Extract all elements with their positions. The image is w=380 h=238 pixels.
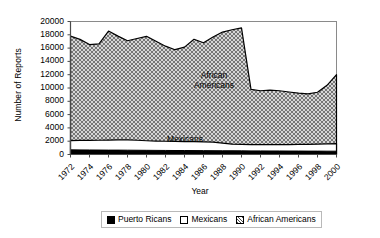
legend-label: Puerto Ricans: [118, 215, 171, 224]
x-axis-title: Year: [150, 186, 250, 196]
legend-label: African Americans: [247, 215, 316, 224]
x-axis-tick-labels: 1972197419761978198019821984198619881990…: [0, 0, 380, 238]
legend-label: Mexicans: [191, 215, 227, 224]
legend-entry[interactable]: Mexicans: [180, 215, 227, 224]
legend-swatch-solid-black: [107, 216, 115, 224]
chart-legend: Puerto RicansMexicansAfrican Americans: [101, 211, 322, 228]
legend-swatch-hatched: [236, 216, 244, 224]
legend-entry[interactable]: African Americans: [236, 215, 316, 224]
legend-entry[interactable]: Puerto Ricans: [107, 215, 171, 224]
legend-swatch-solid-white: [180, 216, 188, 224]
stacked-area-chart: Number of Reports 0200040006000800010000…: [0, 0, 380, 238]
